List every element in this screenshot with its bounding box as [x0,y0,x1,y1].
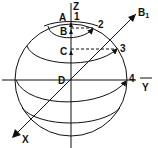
sphere-diagram: Z Y X B1 A B C D 1 2 3 4 [0,0,158,148]
label-4: 4 [129,73,135,84]
label-c: C [60,46,67,57]
label-b1: B1 [138,7,149,19]
label-b: B [60,26,67,37]
arrow-b-icon [69,29,73,34]
label-x: X [22,134,29,145]
label-2: 2 [98,19,104,30]
label-1: 1 [74,11,80,22]
label-y: Y [142,82,149,93]
label-a: A [59,12,66,23]
arrow-c-icon [69,50,73,55]
label-d: D [58,75,65,86]
label-3: 3 [120,43,126,54]
b1-x-axis [14,14,136,136]
